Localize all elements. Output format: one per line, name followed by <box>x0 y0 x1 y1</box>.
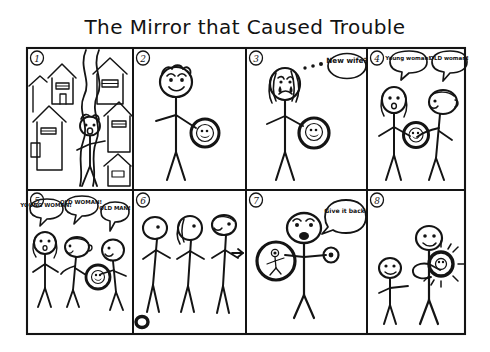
speech-bubble-text: OLD MAN! <box>99 205 131 211</box>
speech-bubble-text: Give it back! <box>324 207 367 214</box>
panel-number-label: 4 <box>373 54 380 64</box>
comic-title: The Mirror that Caused Trouble <box>83 15 405 39</box>
panel-grid <box>27 48 465 334</box>
panel-number-label: 7 <box>253 196 259 206</box>
comic-page: The Mirror that Caused Trouble 1 <box>0 0 490 352</box>
panel-number-label: 1 <box>34 54 40 64</box>
comic-illustration: The Mirror that Caused Trouble 1 <box>0 0 490 352</box>
thought-bubble-text: New wife? <box>326 56 367 65</box>
speech-bubble-text: OLD WOMAN! <box>60 199 102 205</box>
panel-number-label: 2 <box>139 54 146 64</box>
panel-number-label: 3 <box>253 54 259 64</box>
panel-number-label: 8 <box>374 196 380 206</box>
speech-bubble-text: OLD woman! <box>429 55 468 61</box>
panel-number-label: 6 <box>140 196 146 206</box>
speech-bubble-text: Young woman! <box>384 55 431 62</box>
